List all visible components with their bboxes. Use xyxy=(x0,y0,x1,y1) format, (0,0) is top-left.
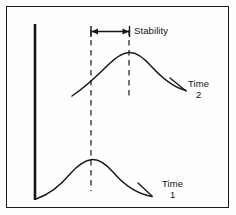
diagram-canvas xyxy=(0,0,236,215)
stability-label: Stability xyxy=(134,25,168,36)
time1-curve xyxy=(36,159,152,199)
time2-label-text: Time xyxy=(188,78,209,89)
stability-diagram: Stability Time 2 Time 1 xyxy=(0,0,236,215)
time1-label-value: 1 xyxy=(162,189,183,200)
time1-label-group: Time 1 xyxy=(162,178,183,200)
stability-arrowhead-right xyxy=(123,28,130,34)
stability-arrowhead-left xyxy=(92,28,99,34)
time2-label-value: 2 xyxy=(188,89,209,100)
time1-label-text: Time xyxy=(162,178,183,189)
time2-label-group: Time 2 xyxy=(188,78,209,100)
